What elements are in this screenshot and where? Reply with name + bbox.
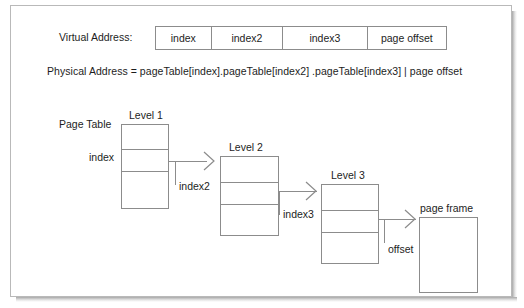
- level-1-caption: Level 1: [129, 109, 163, 122]
- connector-l3-drop: [384, 219, 385, 243]
- level-2-caption: Level 2: [229, 141, 263, 154]
- arrow-l3-to-frame-icon: [404, 209, 416, 229]
- level-2-rowline-2: [221, 204, 278, 205]
- level-3-out-offset-label: offset: [388, 243, 414, 256]
- va-field-index2: index2: [212, 27, 284, 49]
- level-1-rowline-1: [122, 149, 168, 150]
- va-field-page-offset: page offset: [368, 27, 446, 49]
- page-frame-caption: page frame: [420, 202, 473, 215]
- level-2-rowline-1: [221, 182, 278, 183]
- diagram-panel: Virtual Address: index index2 index3 pag…: [10, 5, 512, 297]
- level-1-index-label: index: [89, 151, 114, 164]
- diagram-screenshot: Virtual Address: index index2 index3 pag…: [0, 0, 524, 308]
- panel-shadow-bottom: [16, 297, 517, 302]
- level-2-table: [220, 156, 279, 236]
- page-frame-box: [419, 217, 478, 293]
- arrow-l1-to-l2-icon: [203, 151, 215, 171]
- connector-l1-drop: [175, 161, 176, 185]
- va-field-index: index: [156, 27, 212, 49]
- level-1-table: [121, 124, 169, 209]
- physical-address-formula: Physical Address = pageTable[index].page…: [47, 65, 462, 78]
- connector-l2-drop: [279, 191, 280, 215]
- level-1-rowline-2: [122, 171, 168, 172]
- page-table-label: Page Table: [59, 118, 111, 131]
- level-3-table: [321, 184, 379, 264]
- panel-shadow-right: [512, 11, 517, 297]
- level-1-out-index2-label: index2: [179, 180, 210, 193]
- level-2-out-index3-label: index3: [283, 208, 314, 221]
- level-3-rowline-1: [322, 210, 378, 211]
- virtual-address-label: Virtual Address:: [59, 31, 132, 44]
- arrow-l2-to-l3-icon: [305, 181, 317, 201]
- virtual-address-box: index index2 index3 page offset: [155, 26, 447, 50]
- level-3-caption: Level 3: [331, 169, 365, 182]
- level-3-rowline-2: [322, 232, 378, 233]
- va-field-index3: index3: [283, 27, 367, 49]
